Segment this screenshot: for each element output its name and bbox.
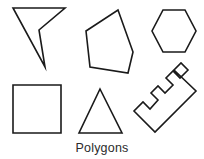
shape-ruler-comb xyxy=(134,63,196,132)
figure-caption: Polygons xyxy=(0,141,204,156)
shape-hexagon xyxy=(152,10,196,52)
shape-pentagon xyxy=(86,10,133,73)
shape-square xyxy=(13,85,61,133)
shape-arrow-dart xyxy=(13,8,65,67)
shape-triangle xyxy=(79,89,122,133)
polygons-figure: Polygons xyxy=(0,0,204,159)
shapes-canvas xyxy=(0,0,204,159)
